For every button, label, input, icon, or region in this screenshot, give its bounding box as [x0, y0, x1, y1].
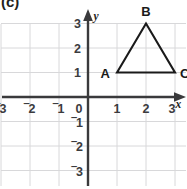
coordinate-grid-svg: x y ‾3 ‾2 ‾1 0 1 2 3 3 2 1 ‾1 ‾2 ‾3 A B … [0, 0, 187, 189]
y-tick-label: 2 [74, 42, 81, 56]
y-tick-label: ‾3 [71, 165, 83, 179]
x-tick-label: ‾1 [52, 102, 64, 116]
x-axis-label: x [175, 98, 182, 110]
coordinate-plane-figure: (c) x [0, 0, 187, 189]
x-tick-label: ‾3 [0, 102, 7, 116]
x-tick-label: ‾2 [23, 102, 35, 116]
y-tick-label: ‾1 [71, 116, 83, 130]
y-axis-label: y [92, 10, 100, 23]
x-tick-label: 3 [169, 102, 176, 116]
y-tick-label: 1 [74, 66, 81, 80]
x-tick-label-origin: 0 [76, 102, 83, 116]
y-tick-labels-negative: ‾1 ‾2 ‾3 [71, 116, 83, 179]
y-tick-labels-positive: 3 2 1 [74, 17, 81, 80]
vertex-label-a: A [101, 66, 111, 81]
x-tick-label: 2 [143, 102, 150, 116]
vertex-label-b: B [141, 4, 150, 19]
y-tick-label: 3 [74, 17, 81, 31]
y-tick-label: ‾2 [71, 140, 83, 154]
x-tick-label: 1 [114, 102, 121, 116]
vertex-label-c: C [180, 66, 187, 81]
